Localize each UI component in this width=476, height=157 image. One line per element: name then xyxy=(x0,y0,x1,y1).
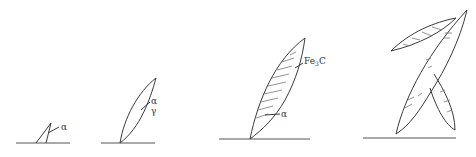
stage-1: α xyxy=(16,122,70,143)
stage-4 xyxy=(363,10,467,138)
stage-3: Fe3C α xyxy=(219,38,326,139)
stage-3-hatching xyxy=(256,52,296,118)
stage-2-label-gamma: γ xyxy=(151,106,156,116)
stage-3-lamella xyxy=(250,38,305,139)
stage-3-label-fe3c: Fe3C xyxy=(304,56,326,67)
pearlite-growth-diagram: α α γ Fe3C α xyxy=(0,0,476,157)
stage-4-lamella-main xyxy=(396,10,467,134)
stage-1-label-alpha: α xyxy=(61,122,67,132)
stage-4-lamella-lower xyxy=(430,74,455,130)
stage-3-label-alpha: α xyxy=(281,109,287,119)
stage-2: α γ xyxy=(101,78,157,143)
stage-2-label-alpha: α xyxy=(151,96,157,106)
